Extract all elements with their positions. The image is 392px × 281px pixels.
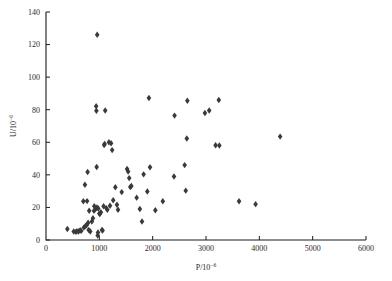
data-point — [113, 184, 118, 190]
x-tick-label: 2000 — [145, 244, 161, 253]
data-point — [95, 32, 100, 38]
data-point — [172, 173, 177, 179]
data-point — [183, 187, 188, 193]
data-point — [213, 142, 218, 148]
data-point — [94, 107, 99, 113]
data-point — [119, 189, 124, 195]
data-point — [110, 147, 115, 153]
y-tick-label: 80 — [32, 106, 40, 115]
x-tick-label: 4000 — [251, 244, 267, 253]
y-tick-label: 20 — [32, 203, 40, 212]
data-point — [115, 202, 120, 208]
data-point — [138, 206, 143, 212]
y-axis-title: U/10−6 — [8, 115, 18, 137]
data-point — [148, 164, 153, 170]
data-point — [87, 207, 92, 213]
data-point — [85, 198, 90, 204]
y-tick-label: 60 — [32, 138, 40, 147]
y-tick-label: 140 — [28, 8, 40, 17]
data-point — [127, 175, 132, 181]
data-point — [153, 207, 158, 213]
data-point — [83, 182, 88, 188]
data-point — [185, 98, 190, 104]
data-point — [85, 169, 90, 175]
x-tick-label: 0 — [44, 244, 48, 253]
x-tick-label: 5000 — [305, 244, 321, 253]
data-point — [94, 164, 99, 170]
data-point — [172, 112, 177, 118]
y-tick-label: 40 — [32, 171, 40, 180]
y-axis-title-exponent: −6 — [8, 115, 14, 121]
data-point — [207, 107, 212, 113]
data-point — [203, 110, 208, 116]
data-point — [141, 171, 146, 177]
data-point — [182, 162, 187, 168]
data-point — [216, 97, 221, 103]
data-point — [111, 197, 116, 203]
data-point — [103, 107, 108, 113]
data-point — [145, 188, 150, 194]
data-point — [237, 198, 242, 204]
x-tick-label: 1000 — [91, 244, 107, 253]
data-point — [116, 207, 121, 213]
data-point — [134, 194, 139, 200]
data-point — [217, 142, 222, 148]
data-point — [253, 201, 258, 207]
scatter-chart: 0204060801001201400100020003000400050006… — [0, 0, 392, 281]
chart-canvas: 0204060801001201400100020003000400050006… — [0, 0, 392, 281]
data-point — [65, 226, 70, 232]
y-tick-label: 100 — [28, 73, 40, 82]
data-point — [147, 95, 152, 101]
x-tick-label: 6000 — [358, 244, 374, 253]
y-tick-label: 0 — [36, 236, 40, 245]
data-series-samples — [65, 32, 282, 239]
y-tick-label: 120 — [28, 40, 40, 49]
data-point — [184, 135, 189, 141]
x-tick-label: 3000 — [198, 244, 214, 253]
x-axis-title: P/10−6 — [196, 262, 217, 272]
data-point — [140, 218, 145, 224]
data-point — [160, 198, 165, 204]
x-axis-title-exponent: −6 — [210, 262, 216, 268]
data-point — [278, 133, 283, 139]
